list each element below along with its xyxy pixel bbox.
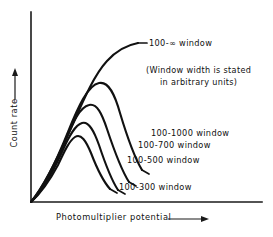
curve-label-100-700: 100-700 window	[138, 140, 211, 151]
leader-100-300	[110, 189, 117, 193]
curve-label-100-1000: 100-1000 window	[151, 128, 229, 139]
curve-100-700	[31, 105, 129, 202]
photomultiplier-plateau-figure: Count rate Photomultiplier potential 100…	[0, 0, 273, 237]
plot-canvas	[0, 0, 273, 237]
curve-label-100-infinity: 100-∞ window	[149, 38, 212, 49]
curve-label-100-300: 100-300 window	[119, 182, 192, 193]
curve-label-100-500: 100-500 window	[127, 155, 200, 166]
x-axis-arrow-icon	[168, 216, 209, 222]
curve-100-300	[31, 136, 110, 202]
x-axis-label-text: Photomultiplier potential	[56, 212, 171, 223]
y-axis-label: Count rate	[2, 62, 24, 190]
curve-100-500	[31, 123, 118, 202]
window-width-note: (Window width is stated in arbitrary uni…	[146, 65, 251, 88]
window-width-note-line1: (Window width is stated	[146, 65, 251, 77]
leader-100-1000	[142, 170, 149, 174]
window-width-note-line2: in arbitrary units)	[146, 77, 251, 89]
y-axis-label-text: Count rate	[9, 73, 19, 173]
